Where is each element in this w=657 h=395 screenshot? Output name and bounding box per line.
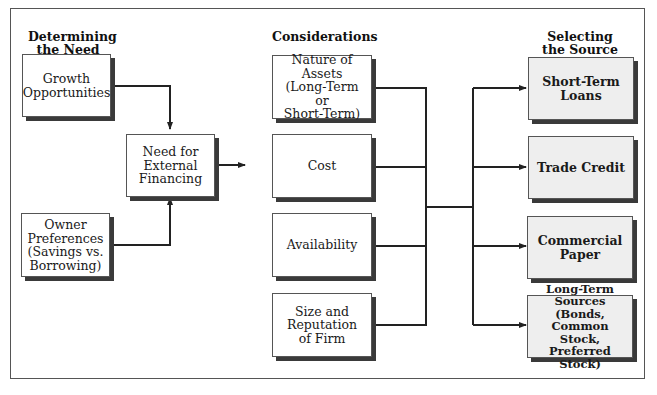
box-growth-opportunities: Growth Opportunities	[22, 54, 111, 117]
box-label: Commercial Paper	[538, 234, 623, 261]
box-label: Owner Preferences (Savings vs. Borrowing…	[27, 218, 103, 272]
box-commercial-paper: Commercial Paper	[527, 216, 633, 279]
box-label: Availability	[287, 238, 358, 252]
box-short-term-loans: Short-Term Loans	[528, 57, 634, 120]
box-long-term-sources: Long-Term Sources (Bonds, Common Stock, …	[527, 295, 633, 358]
box-cost: Cost	[272, 134, 372, 198]
box-label: Nature of Assets (Long-Term or Short-Ter…	[275, 53, 369, 121]
box-owner-preferences: Owner Preferences (Savings vs. Borrowing…	[21, 213, 110, 277]
box-trade-credit: Trade Credit	[528, 136, 634, 199]
box-availability: Availability	[272, 213, 372, 277]
box-label: Growth Opportunities	[23, 72, 111, 99]
box-label: Long-Term Sources (Bonds, Common Stock, …	[530, 283, 630, 371]
box-need-external-financing: Need for External Financing	[126, 134, 215, 197]
box-nature-of-assets: Nature of Assets (Long-Term or Short-Ter…	[272, 55, 372, 119]
box-label: Trade Credit	[537, 161, 625, 175]
box-label: Size and Reputation of Firm	[287, 305, 357, 346]
box-size-reputation: Size and Reputation of Firm	[272, 293, 372, 357]
box-label: Cost	[308, 159, 337, 173]
box-label: Need for External Financing	[139, 145, 202, 186]
box-label: Short-Term Loans	[542, 75, 620, 102]
